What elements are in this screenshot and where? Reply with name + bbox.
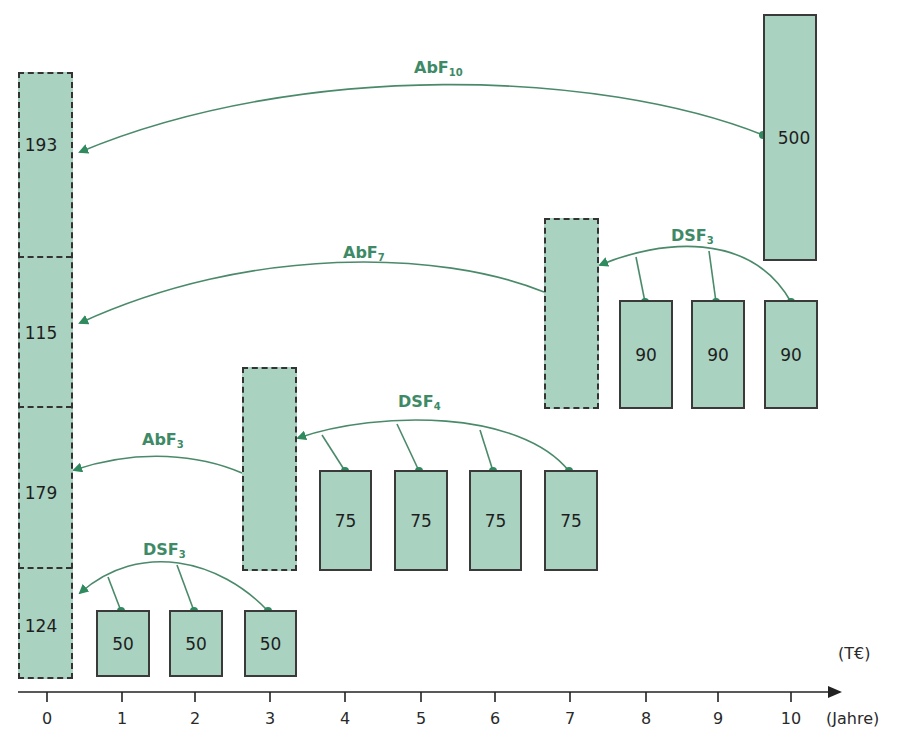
tick-label-5: 5: [406, 709, 436, 728]
axis-ticks: [47, 692, 791, 702]
stack-divider: [18, 256, 72, 258]
tick-label-3: 3: [255, 709, 285, 728]
payment-75-year5: 75: [394, 470, 448, 571]
stack-divider: [18, 567, 72, 569]
segment-value-179: 179: [18, 483, 64, 503]
payment-90-year10: 90: [764, 300, 818, 409]
payment-50-year2: 50: [169, 610, 223, 677]
payment-75-year4: 75: [319, 470, 372, 571]
payment-500: 500: [763, 14, 817, 261]
label-abf10: AbF10: [414, 58, 463, 78]
tick-label-7: 7: [555, 709, 585, 728]
dsf3-50-arrow: [80, 562, 268, 611]
segment-value-124: 124: [18, 616, 64, 636]
tick-label-1: 1: [107, 709, 137, 728]
label-dsf3-50: DSF3: [143, 540, 186, 560]
payment-90-year9: 90: [691, 300, 745, 409]
tick-label-4: 4: [330, 709, 360, 728]
label-dsf3-90: DSF3: [671, 226, 714, 246]
present-value-stack: [18, 72, 73, 679]
abf10-arrow: [80, 85, 763, 152]
payment-50-year1: 50: [96, 610, 150, 677]
segment-value-115: 115: [18, 323, 64, 343]
label-abf3: AbF3: [142, 430, 184, 450]
payment-75-year7: 75: [544, 470, 598, 571]
unit-currency: (T€): [838, 644, 870, 663]
tick-label-2: 2: [180, 709, 210, 728]
tick-label-6: 6: [480, 709, 510, 728]
stack-divider: [18, 406, 72, 408]
unit-years: (Jahre): [826, 709, 879, 728]
label-abf7: AbF7: [343, 243, 385, 263]
tick-label-9: 9: [703, 709, 733, 728]
intermediate-value-year3: [242, 367, 297, 571]
tick-label-8: 8: [631, 709, 661, 728]
payment-75-year6: 75: [469, 470, 522, 571]
dsf4-arrow: [298, 420, 569, 471]
segment-value-193: 193: [18, 135, 64, 155]
abf3-arrow: [74, 456, 242, 473]
abf7-arrow: [80, 262, 544, 323]
intermediate-value-year7: [544, 218, 599, 409]
payment-90-year8: 90: [619, 300, 673, 409]
tick-label-0: 0: [32, 709, 62, 728]
payment-50-year3: 50: [244, 610, 297, 677]
tick-label-10: 10: [776, 709, 806, 728]
label-dsf4: DSF4: [398, 392, 441, 412]
